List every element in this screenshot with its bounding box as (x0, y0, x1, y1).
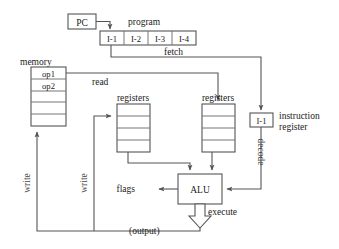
diagram-canvas: PC program I-1 I-2 I-3 I-4 fetch memory (0, 0, 339, 249)
cpu-instruction-cycle-diagram: PC program I-1 I-2 I-3 I-4 fetch memory (0, 0, 339, 249)
alu-block: ALU (178, 174, 222, 204)
instruction-register-title-line2: register (279, 122, 308, 132)
registers-left-block (117, 104, 150, 152)
pc-to-program-arrow (96, 22, 110, 30)
instruction-register-value: I-1 (256, 116, 266, 126)
program-block: I-1 I-2 I-3 I-4 (100, 31, 196, 45)
output-label: (output) (129, 226, 160, 237)
execute-label: execute (208, 207, 237, 217)
program-title: program (128, 17, 161, 27)
memory-block: op1 op2 (31, 67, 66, 126)
pc-to-program-wire (96, 22, 110, 30)
memory-cell-1: op2 (42, 81, 55, 91)
pc-block: PC (68, 14, 96, 29)
fetch-label: fetch (164, 47, 183, 57)
pc-label: PC (76, 18, 88, 28)
registers-right-title: registers (202, 93, 234, 103)
registers-right-block (202, 104, 235, 152)
read-label: read (92, 77, 109, 87)
flags-label: flags (117, 184, 136, 194)
memory-cell-0: op1 (42, 69, 55, 79)
instruction-register-title-line1: instruction (279, 111, 320, 121)
memory-title: memory (20, 57, 52, 67)
decode-label: decode (256, 139, 266, 166)
registers-left-to-alu-wire (128, 152, 190, 170)
program-cell-0: I-1 (107, 34, 117, 44)
program-cell-2: I-3 (155, 34, 165, 44)
registers-left-title: registers (117, 93, 149, 103)
program-cell-3: I-4 (179, 34, 190, 44)
program-cell-1: I-2 (131, 34, 141, 44)
alu-label: ALU (190, 185, 210, 195)
write-registers-label: write (79, 173, 89, 193)
write-memory-label: write (22, 173, 32, 193)
registers-left-to-alu-path (128, 152, 190, 170)
output-to-registers-path (94, 116, 111, 231)
